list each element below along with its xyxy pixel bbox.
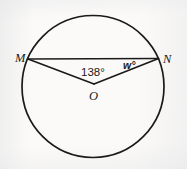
geometry-figure: M N O 138° w° (0, 0, 187, 169)
point-label-m: M (15, 52, 25, 65)
circle-diagram-canvas (0, 0, 187, 169)
angle-variable-label-w: w° (123, 60, 135, 71)
circle-outline (22, 16, 164, 158)
point-label-o: O (89, 90, 98, 103)
central-angle-measure-label: 138° (81, 67, 105, 79)
point-label-n: N (163, 53, 171, 66)
chord-segment-mn (28, 59, 159, 60)
